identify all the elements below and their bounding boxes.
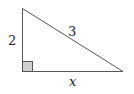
horizontal-leg-label: x: [69, 74, 77, 89]
hypotenuse-label: 3: [68, 24, 76, 39]
triangle-diagram: 2 3 x: [0, 0, 134, 94]
right-triangle: [23, 9, 124, 72]
right-angle-marker: [23, 62, 33, 72]
vertical-leg-label: 2: [8, 33, 16, 48]
